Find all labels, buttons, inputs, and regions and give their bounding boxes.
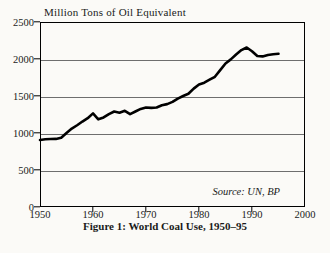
- y-tick-label-1000: 1000: [13, 128, 34, 139]
- y-tick-mark-500: [34, 169, 40, 170]
- figure-world-coal-use: Million Tons of Oil Equivalent Source: U…: [0, 0, 330, 253]
- x-tick-mark-1980: [198, 207, 199, 212]
- x-tick-mark-1970: [145, 207, 146, 212]
- y-tick-mark-1000: [34, 132, 40, 133]
- source-annotation: Source: UN, BP: [212, 186, 280, 197]
- y-tick-label-2500: 2500: [13, 17, 34, 28]
- y-tick-label-1500: 1500: [13, 91, 34, 102]
- y-tick-mark-2500: [34, 21, 40, 22]
- series-polyline: [40, 48, 279, 141]
- figure-caption: Figure 1: World Coal Use, 1950–95: [0, 220, 330, 232]
- x-tick-mark-1960: [92, 207, 93, 212]
- y-tick-label-500: 500: [18, 165, 34, 176]
- x-tick-mark-1990: [251, 207, 252, 212]
- x-tick-label-1950: 1950: [30, 209, 51, 220]
- x-tick-label-2000: 2000: [295, 209, 316, 220]
- y-tick-mark-0: [34, 206, 40, 207]
- y-tick-mark-1500: [34, 95, 40, 96]
- y-tick-label-2000: 2000: [13, 54, 34, 65]
- y-tick-mark-2000: [34, 58, 40, 59]
